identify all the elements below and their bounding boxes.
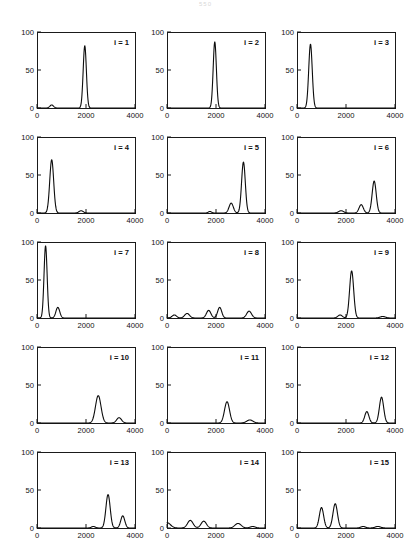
y-tick-label: 50 bbox=[286, 276, 294, 285]
y-tick-label: 100 bbox=[21, 28, 34, 37]
x-tick-label: 0 bbox=[165, 216, 169, 225]
y-tick-label: 0 bbox=[290, 524, 294, 533]
panel-index-label: i = 1 bbox=[114, 38, 130, 47]
y-tick-label: 100 bbox=[151, 448, 164, 457]
y-tick-label: 100 bbox=[281, 343, 294, 352]
chart-panel-13: 050100020004000i = 13 bbox=[7, 442, 157, 550]
y-tick-label: 0 bbox=[30, 419, 34, 428]
panel-index-label: i = 4 bbox=[114, 143, 130, 152]
y-tick-label: 100 bbox=[151, 133, 164, 142]
y-tick-label: 50 bbox=[26, 486, 34, 495]
x-tick-label: 2000 bbox=[338, 216, 355, 225]
y-tick-label: 0 bbox=[290, 104, 294, 113]
chart-panel-8: 050100020004000i = 8 bbox=[137, 232, 287, 340]
chart-panel-1: 050100020004000i = 1 bbox=[7, 22, 157, 130]
y-tick-label: 100 bbox=[21, 238, 34, 247]
data-curve bbox=[37, 396, 135, 423]
y-tick-label: 50 bbox=[286, 381, 294, 390]
x-tick-label: 4000 bbox=[387, 321, 404, 330]
y-tick-label: 0 bbox=[160, 104, 164, 113]
panel-index-label: i = 3 bbox=[374, 38, 389, 47]
chart-panel-7: 050100020004000i = 7 bbox=[7, 232, 157, 340]
x-tick-label: 2000 bbox=[208, 111, 225, 120]
data-curve bbox=[37, 46, 135, 108]
y-tick-label: 50 bbox=[26, 381, 34, 390]
y-tick-label: 0 bbox=[160, 524, 164, 533]
x-tick-label: 4000 bbox=[387, 216, 404, 225]
panel-index-label: i = 5 bbox=[244, 143, 260, 152]
data-curve bbox=[297, 181, 395, 213]
chart-panel-15: 050100020004000i = 15 bbox=[267, 442, 411, 550]
x-tick-label: 2000 bbox=[208, 531, 225, 540]
panel-index-label: i = 6 bbox=[374, 143, 389, 152]
x-tick-label: 0 bbox=[165, 111, 169, 120]
panel-index-label: i = 7 bbox=[114, 248, 129, 257]
panel-index-label: i = 10 bbox=[110, 353, 129, 362]
y-tick-label: 100 bbox=[281, 133, 294, 142]
chart-panel-2: 050100020004000i = 2 bbox=[137, 22, 287, 130]
x-tick-label: 2000 bbox=[338, 111, 355, 120]
panel-index-label: i = 15 bbox=[370, 458, 390, 467]
y-tick-label: 100 bbox=[281, 28, 294, 37]
panel-index-label: i = 12 bbox=[370, 353, 389, 362]
x-tick-label: 2000 bbox=[338, 531, 355, 540]
x-tick-label: 4000 bbox=[387, 531, 404, 540]
y-tick-label: 100 bbox=[21, 448, 34, 457]
panel-index-label: i = 9 bbox=[374, 248, 389, 257]
data-curve bbox=[167, 162, 265, 213]
panel-index-label: i = 2 bbox=[244, 38, 259, 47]
data-curve bbox=[37, 160, 135, 213]
x-tick-label: 2000 bbox=[338, 426, 355, 435]
x-tick-label: 0 bbox=[35, 111, 39, 120]
y-tick-label: 50 bbox=[156, 381, 164, 390]
x-tick-label: 0 bbox=[295, 426, 299, 435]
y-tick-label: 50 bbox=[286, 486, 294, 495]
chart-panel-4: 050100020004000i = 4 bbox=[7, 127, 157, 235]
x-tick-label: 2000 bbox=[208, 426, 225, 435]
chart-panel-11: 050100020004000i = 11 bbox=[137, 337, 287, 445]
y-tick-label: 0 bbox=[290, 209, 294, 218]
x-tick-label: 0 bbox=[295, 111, 299, 120]
x-tick-label: 2000 bbox=[208, 216, 225, 225]
chart-panel-10: 050100020004000i = 10 bbox=[7, 337, 157, 445]
y-tick-label: 50 bbox=[286, 171, 294, 180]
y-tick-label: 50 bbox=[156, 66, 164, 75]
y-tick-label: 100 bbox=[21, 343, 34, 352]
x-tick-label: 2000 bbox=[78, 321, 95, 330]
x-tick-label: 2000 bbox=[78, 531, 95, 540]
y-tick-label: 0 bbox=[290, 314, 294, 323]
panel-index-label: i = 11 bbox=[240, 353, 260, 362]
y-tick-label: 100 bbox=[281, 448, 294, 457]
y-tick-label: 50 bbox=[26, 276, 34, 285]
chart-panel-3: 050100020004000i = 3 bbox=[267, 22, 411, 130]
x-tick-label: 4000 bbox=[387, 111, 404, 120]
figure-panel-grid: 050100020004000i = 1050100020004000i = 2… bbox=[0, 0, 411, 553]
chart-panel-6: 050100020004000i = 6 bbox=[267, 127, 411, 235]
y-tick-label: 100 bbox=[151, 238, 164, 247]
y-tick-label: 0 bbox=[160, 314, 164, 323]
y-tick-label: 0 bbox=[290, 419, 294, 428]
data-curve bbox=[297, 44, 395, 108]
y-tick-label: 50 bbox=[156, 276, 164, 285]
y-tick-label: 0 bbox=[160, 419, 164, 428]
y-tick-label: 0 bbox=[30, 314, 34, 323]
x-tick-label: 0 bbox=[295, 321, 299, 330]
x-tick-label: 0 bbox=[35, 531, 39, 540]
y-tick-label: 100 bbox=[21, 133, 34, 142]
x-tick-label: 0 bbox=[35, 426, 39, 435]
y-tick-label: 50 bbox=[26, 171, 34, 180]
panel-index-label: i = 14 bbox=[240, 458, 260, 467]
y-tick-label: 50 bbox=[26, 66, 34, 75]
y-tick-label: 0 bbox=[30, 104, 34, 113]
chart-panel-12: 050100020004000i = 12 bbox=[267, 337, 411, 445]
x-tick-label: 2000 bbox=[78, 216, 95, 225]
y-tick-label: 50 bbox=[156, 171, 164, 180]
y-tick-label: 100 bbox=[281, 238, 294, 247]
x-tick-label: 0 bbox=[35, 321, 39, 330]
x-tick-label: 0 bbox=[165, 426, 169, 435]
x-tick-label: 2000 bbox=[338, 321, 355, 330]
y-tick-label: 50 bbox=[286, 66, 294, 75]
x-tick-label: 0 bbox=[165, 321, 169, 330]
data-curve bbox=[37, 495, 135, 528]
x-tick-label: 0 bbox=[295, 216, 299, 225]
